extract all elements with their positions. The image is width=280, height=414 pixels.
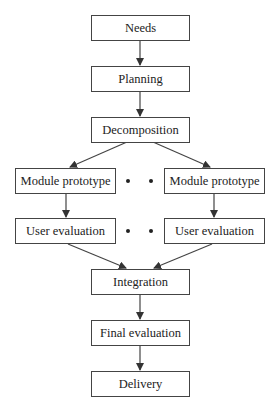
ellipsis-dot xyxy=(149,229,153,233)
node-needs: Needs xyxy=(91,15,190,41)
node-user-evaluation-right: User evaluation xyxy=(164,218,265,244)
ellipsis-dot xyxy=(126,229,130,233)
node-module-prototype-right: Module prototype xyxy=(164,168,265,194)
ellipsis-dot xyxy=(149,179,153,183)
node-decomposition: Decomposition xyxy=(91,117,190,143)
arrow-user-eval-left-integration xyxy=(68,244,126,268)
ellipsis-dot xyxy=(126,179,130,183)
node-final-evaluation: Final evaluation xyxy=(91,320,190,346)
node-delivery: Delivery xyxy=(91,371,190,397)
arrow-user-eval-right-integration xyxy=(154,244,212,268)
node-module-prototype-left: Module prototype xyxy=(15,168,116,194)
node-planning: Planning xyxy=(91,66,190,92)
node-user-evaluation-left: User evaluation xyxy=(15,218,116,244)
connector-layer xyxy=(0,0,280,414)
arrow-decomposition-module-left xyxy=(70,142,127,167)
arrow-decomposition-module-right xyxy=(153,142,210,167)
node-integration: Integration xyxy=(91,269,190,295)
